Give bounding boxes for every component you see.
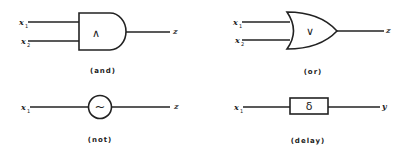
delay-element: x 1 δ y (delay) [233,98,388,145]
or-gate: x 1 x 2 ∨ z (or) [232,12,391,76]
not-caption: (not) [88,136,113,144]
and-input-2-label: x [20,36,26,46]
delay-output-label: y [381,101,388,111]
and-input-1-label: x [18,17,24,27]
or-symbol: ∨ [306,25,314,38]
not-input-sub: 1 [27,108,30,114]
and-caption: (and) [90,67,116,75]
or-input-2-label: x [234,35,240,45]
and-input-2-sub: 2 [27,42,30,48]
and-symbol: ∧ [92,27,100,40]
not-symbol: ~ [95,99,106,114]
or-caption: (or) [304,68,323,76]
or-input-2-sub: 2 [241,41,244,47]
or-input-1-label: x [232,17,238,27]
and-input-1-sub: 1 [25,23,28,29]
delay-input-sub: 1 [240,108,243,114]
delay-symbol: δ [306,100,313,113]
and-output-label: z [172,26,178,36]
delay-caption: (delay) [291,137,326,145]
or-output-label: z [385,25,391,35]
not-gate: x 1 ~ z (not) [20,96,179,145]
not-input-label: x [20,102,26,112]
and-gate: x 1 x 2 ∧ z (and) [18,13,178,75]
or-input-1-sub: 1 [239,23,242,29]
delay-input-label: x [233,102,239,112]
not-output-label: z [173,101,179,111]
logic-gates-diagram: x 1 x 2 ∧ z (and) x 1 x 2 ∨ z (or) x 1 ~… [0,0,408,150]
